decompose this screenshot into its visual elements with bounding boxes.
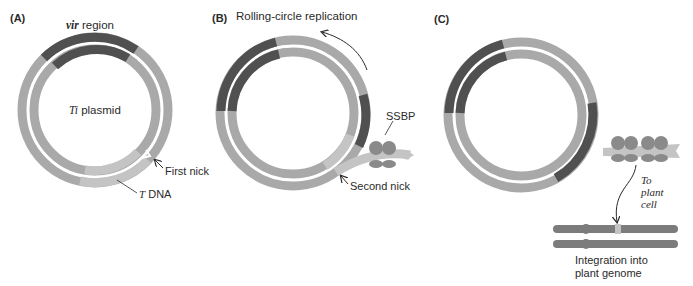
diagram-canvas [0, 0, 693, 286]
vir-region-label: vir region [66, 19, 114, 31]
plant-chromosomes [553, 224, 678, 249]
to-plant-cell-label: Toplantcell [641, 174, 664, 210]
ssbp-label: SSBP [386, 110, 415, 122]
ti-plasmid-label: Ti plasmid [69, 104, 121, 116]
integration-label: Integration intoplant genome [575, 254, 648, 280]
rolling-circle [220, 40, 414, 186]
tdna-leader-line [117, 180, 137, 193]
transfer-arrow [616, 165, 636, 222]
rolling-circle-title: Rolling-circle replication [236, 10, 357, 22]
remaining-plasmid-circle [448, 42, 594, 188]
panel-c-label: (C) [434, 13, 449, 25]
panel-a-label: (A) [10, 12, 25, 24]
panel-b-label: (B) [212, 12, 227, 24]
first-nick-label: First nick [165, 165, 209, 177]
second-nick-label: Second nick [350, 180, 410, 192]
second-nick-arrow [341, 176, 348, 184]
tdna-ssbp-complex [603, 136, 680, 162]
tdna-label: T DNA [139, 188, 171, 200]
first-nick-arrow [155, 160, 163, 168]
